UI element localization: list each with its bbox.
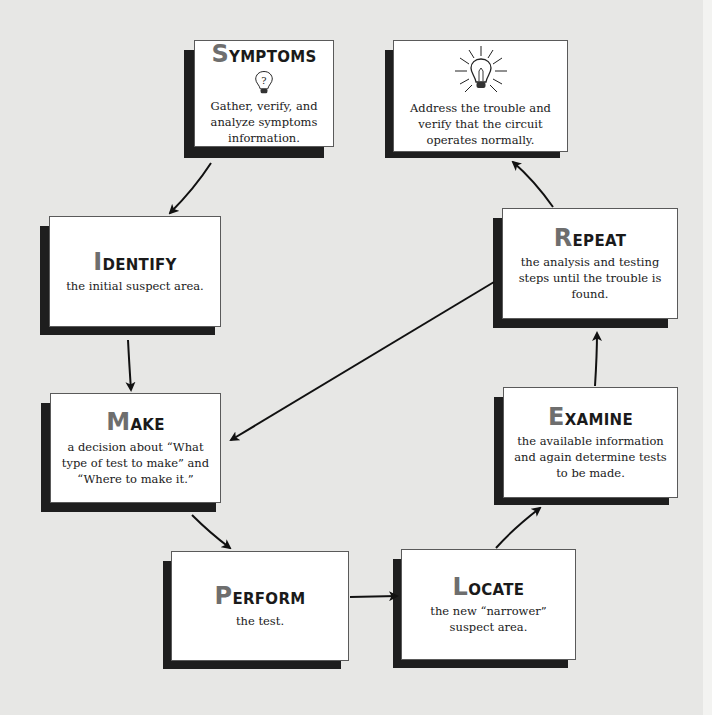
flow-arrows: [0, 0, 712, 715]
arrow-perform-to-locate: [350, 596, 397, 597]
arrow-make-to-perform: [192, 515, 230, 548]
arrow-repeat-to-resolve: [513, 162, 553, 207]
arrow-symptoms-to-identify: [170, 163, 211, 213]
arrow-examine-to-repeat: [595, 333, 597, 386]
arrow-locate-to-examine: [496, 508, 540, 548]
arrow-identify-to-make: [128, 340, 131, 390]
arrow-repeat-to-make: [231, 282, 494, 440]
